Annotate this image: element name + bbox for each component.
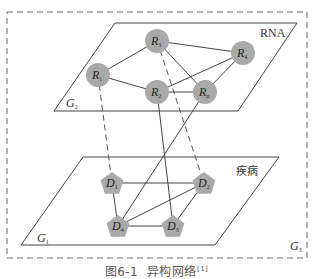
disease-layer-label: 疾病 xyxy=(236,164,258,178)
figure-caption: 图6-1 异构网络[1] xyxy=(0,262,313,279)
dashed-edge-R3-D2 xyxy=(157,41,204,183)
dashed-edge-R1-D1 xyxy=(98,75,112,183)
g3-label: G3 xyxy=(290,239,302,253)
caption-prefix: 图6-1 xyxy=(105,265,139,279)
disease-nodes: D1D2D4D3 xyxy=(101,172,216,237)
edge-D4-D2 xyxy=(118,183,204,226)
edge-R3-R4 xyxy=(157,41,243,53)
g1-label: G1 xyxy=(37,231,49,245)
edge-Rn-D4 xyxy=(118,92,205,226)
caption-reference: [1] xyxy=(197,265,208,273)
intra-layer-edges xyxy=(98,41,243,226)
caption-text: 异构网络 xyxy=(147,265,197,279)
heterogeneous-network-diagram: R3R4R1R2Rn D1D2D4D3 RNA 疾病 G2 G1 G3 xyxy=(0,0,313,279)
g2-label: G2 xyxy=(66,96,78,110)
edge-R2-D3 xyxy=(157,92,173,226)
rna-layer-label: RNA xyxy=(260,26,286,40)
